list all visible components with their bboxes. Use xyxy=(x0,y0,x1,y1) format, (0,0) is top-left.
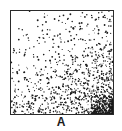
stipple-pattern xyxy=(11,11,113,114)
panel-label: A xyxy=(0,115,122,129)
stipple-panel xyxy=(10,10,114,115)
